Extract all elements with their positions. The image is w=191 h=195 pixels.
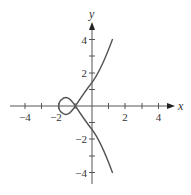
y-axis-arrow-icon [89, 22, 95, 30]
x-axis-arrow-icon [167, 103, 175, 109]
y-tick-label-4: 4 [82, 34, 88, 46]
x-tick-label-neg4: −4 [19, 111, 31, 123]
x-tick-label-4: 4 [156, 111, 162, 123]
chart: −4 −2 2 4 4 2 −2 −4 x y [0, 0, 191, 195]
y-axis-label: y [88, 7, 95, 21]
y-tick-label-2: 2 [82, 67, 88, 79]
x-tick-label-2: 2 [122, 111, 128, 123]
y-tick-label-neg4: −4 [75, 167, 87, 179]
x-tick-label-neg2: −2 [50, 111, 62, 123]
y-tick-label-neg2: −2 [75, 133, 87, 145]
x-axis-label: x [177, 99, 184, 113]
